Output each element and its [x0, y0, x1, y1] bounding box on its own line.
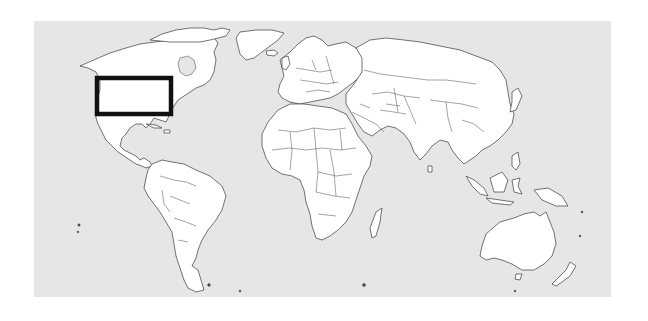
- land-australia: [480, 212, 556, 270]
- land-sulawesi: [512, 178, 522, 194]
- land-tasmania: [515, 274, 522, 280]
- land-borneo: [490, 172, 508, 192]
- land-japan: [510, 88, 522, 112]
- islet-pacific-2: [77, 231, 79, 233]
- land-sumatra: [466, 176, 488, 196]
- islet-vanuatu: [579, 235, 581, 237]
- islet-pacific: [78, 224, 80, 226]
- land-africa: [262, 104, 372, 240]
- land-philippines: [512, 152, 520, 170]
- land-greenland: [236, 30, 284, 60]
- islet-south-georgia: [239, 290, 241, 292]
- land-new-zealand: [552, 262, 576, 286]
- islet-solomon: [581, 211, 583, 213]
- land-asia: [346, 38, 514, 164]
- land-arctic-islands: [150, 28, 230, 42]
- land-new-guinea: [534, 188, 568, 206]
- land-south-america: [144, 160, 226, 292]
- islet-falklands: [208, 284, 211, 287]
- land-hispaniola: [164, 130, 170, 133]
- world-map: [0, 0, 648, 321]
- islet-kerguelen: [362, 283, 365, 286]
- land-north-america: [80, 34, 218, 168]
- land-madagascar: [370, 208, 382, 238]
- land-java: [486, 198, 514, 205]
- islet-macquarie: [514, 290, 516, 292]
- land-sri-lanka: [428, 166, 432, 172]
- land-iceland: [266, 50, 278, 56]
